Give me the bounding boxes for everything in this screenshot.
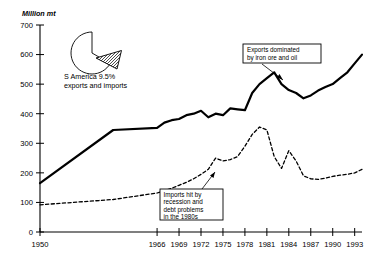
x-tick-label: 1990 [324,240,341,249]
exports-callout: Exports dominated by iron ore and oil [243,44,321,80]
y-tick-label: 200 [20,169,33,178]
imports-callout: Imports hit by recession and debt proble… [160,172,223,220]
x-tick-label: 1987 [302,240,319,249]
imports-callout-line2: recession and [164,198,204,205]
pie-label-line1: S America 9.5% [64,72,116,81]
exports-callout-line2: by iron ore and oil [247,54,297,62]
y-tick-label: 400 [20,110,33,119]
chart-container: Million mt 0100200300400500600700 195019… [0,0,370,268]
pie-label-line2: exports and imports [64,81,128,90]
y-tick-label: 600 [20,50,33,59]
imports-callout-line4: in the 1980s [164,213,198,220]
south-america-trade-line-chart: Million mt 0100200300400500600700 195019… [0,0,370,268]
x-tick-label: 1972 [193,240,210,249]
x-tick-label: 1981 [258,240,275,249]
y-tick-label: 700 [20,21,33,30]
x-tick-label: 1984 [280,240,297,249]
x-tick-label: 1993 [346,240,363,249]
x-axis-ticks: 1950196619691972197519781981198419871990… [32,228,364,249]
inset-pie-chart: S America 9.5% exports and imports [64,32,128,90]
x-tick-label: 1978 [236,240,253,249]
exports-callout-line1: Exports dominated [247,46,300,54]
y-tick-label: 500 [20,80,33,89]
y-tick-label: 0 [29,228,33,237]
y-tick-label: 300 [20,139,33,148]
x-tick-label: 1969 [171,240,188,249]
x-tick-label: 1950 [32,240,49,249]
y-axis-title: Million mt [22,9,56,18]
x-tick-label: 1966 [149,240,166,249]
pie-slice-rest-of-world [71,32,110,74]
x-tick-label: 1975 [215,240,232,249]
y-tick-label: 100 [20,198,33,207]
